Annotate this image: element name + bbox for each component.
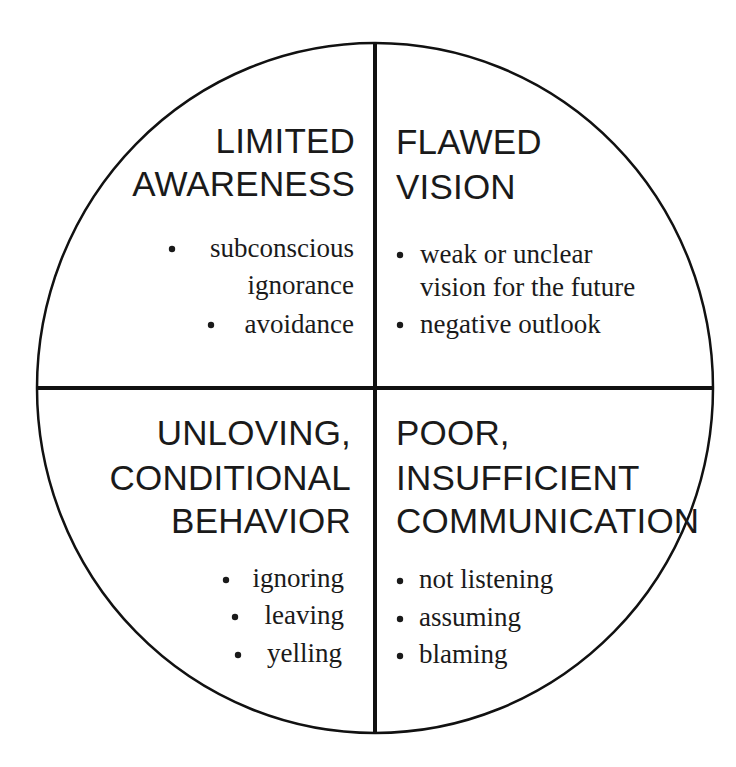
quadrant-bottom-left: UNLOVING, CONDITIONAL BEHAVIOR ignoring …: [110, 413, 351, 668]
quadrant-heading-line: VISION: [396, 167, 516, 206]
bullet-text: ignoring: [253, 563, 345, 593]
bullet-icon: [223, 577, 229, 583]
quadrant-heading-line: POOR,: [396, 413, 510, 452]
bullet-text: not listening: [419, 564, 553, 594]
bullet-icon: [169, 246, 175, 252]
quadrant-heading-line: COMMUNICATION: [396, 501, 699, 540]
bullet-text: negative outlook: [420, 309, 601, 339]
bullet-text: assuming: [419, 602, 521, 632]
bullet-icon: [397, 578, 403, 584]
quadrant-heading-line: LIMITED: [216, 121, 355, 160]
bullet-icon: [397, 653, 403, 659]
bullet-text: weak or unclear: [420, 239, 592, 269]
bullet-icon: [397, 252, 403, 258]
bullet-icon: [397, 616, 403, 622]
quadrant-heading-line: AWARENESS: [132, 164, 355, 203]
bullet-text: blaming: [419, 639, 508, 669]
bullet-text: ignorance: [248, 270, 354, 300]
bullet-text: avoidance: [245, 309, 354, 339]
bullet-icon: [208, 322, 214, 328]
bullet-icon: [235, 652, 241, 658]
quadrant-heading-line: INSUFFICIENT: [396, 458, 640, 497]
quadrant-bottom-right: POOR, INSUFFICIENT COMMUNICATION not lis…: [396, 413, 699, 669]
bullet-text: subconscious: [210, 233, 354, 263]
quadrant-heading-line: BEHAVIOR: [171, 501, 351, 540]
bullet-text: vision for the future: [420, 272, 635, 302]
quadrant-top-left: LIMITED AWARENESS subconscious ignorance…: [132, 121, 355, 339]
four-quadrant-diagram: LIMITED AWARENESS subconscious ignorance…: [0, 0, 736, 767]
bullet-icon: [397, 322, 403, 328]
quadrant-heading-line: UNLOVING,: [157, 413, 351, 452]
quadrant-top-right: FLAWED VISION weak or unclear vision for…: [396, 122, 635, 339]
quadrant-heading-line: FLAWED: [396, 122, 542, 161]
bullet-icon: [232, 614, 238, 620]
quadrant-heading-line: CONDITIONAL: [110, 458, 351, 497]
bullet-text: yelling: [267, 638, 342, 668]
bullet-text: leaving: [265, 600, 344, 630]
